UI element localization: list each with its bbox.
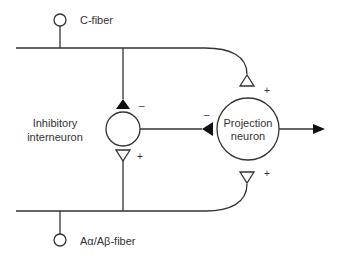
inhibitory-interneuron — [106, 112, 140, 146]
inhibitory-label-line1: Inhibitory — [33, 117, 78, 129]
projection-neuron — [217, 98, 279, 160]
output-arrowhead-icon — [313, 124, 325, 134]
c-fiber-label: C-fiber — [80, 14, 113, 26]
sign-inhibitory-projection: – — [204, 109, 210, 120]
inhibitory-label-line2: interneuron — [27, 131, 83, 143]
inhibitory-synapse-on-projection-icon — [202, 122, 213, 136]
sign-c-projection: + — [264, 85, 270, 96]
excitatory-synapse-c-on-projection-icon — [240, 75, 254, 86]
excitatory-synapse-on-interneuron-icon — [116, 150, 130, 161]
projection-label-line2: neuron — [231, 130, 265, 142]
gate-control-diagram: C-fiber Aα/Aβ-fiber Inhibitory interneur… — [0, 0, 342, 258]
projection-label-line1: Projection — [224, 117, 273, 129]
sign-a-inhibitory: + — [137, 151, 143, 162]
a-fiber-soma — [54, 234, 66, 246]
excitatory-synapse-a-on-projection-icon — [240, 172, 254, 183]
a-fiber-axon — [16, 184, 247, 211]
sign-a-projection: + — [264, 168, 270, 179]
sign-c-inhibitory: – — [139, 100, 145, 111]
a-fiber-label: Aα/Aβ-fiber — [80, 235, 136, 247]
c-fiber-soma — [54, 14, 66, 26]
c-fiber-axon — [16, 48, 247, 74]
inhibitory-synapse-on-interneuron-icon — [116, 99, 130, 109]
